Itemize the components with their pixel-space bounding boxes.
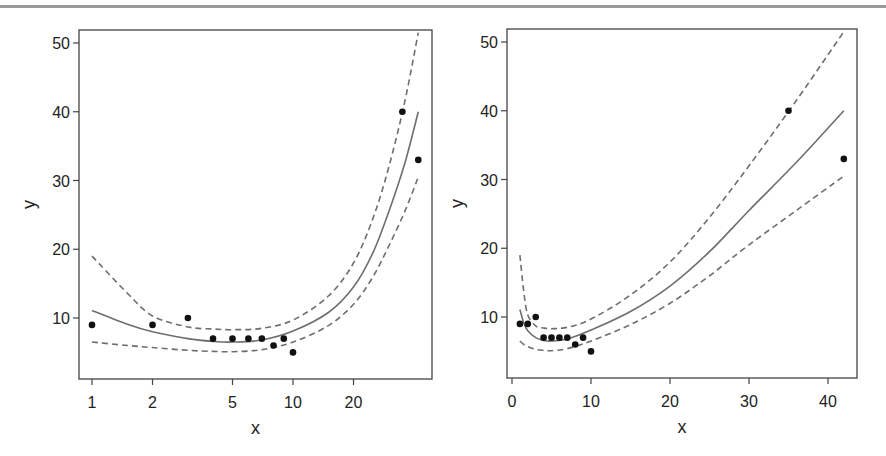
x-tick-label: 2 bbox=[148, 394, 157, 411]
data-point bbox=[525, 321, 532, 328]
x-axis-label: x bbox=[678, 417, 687, 437]
x-axis-label: x bbox=[251, 418, 260, 438]
x-tick-label: 20 bbox=[661, 393, 679, 410]
y-axis-label: y bbox=[19, 200, 39, 209]
y-tick-label: 20 bbox=[480, 240, 498, 257]
upper-curve bbox=[520, 32, 844, 329]
y-tick-label: 30 bbox=[52, 173, 70, 190]
data-point bbox=[185, 315, 192, 322]
y-tick-label: 10 bbox=[480, 309, 498, 326]
data-point bbox=[399, 108, 406, 115]
data-point bbox=[540, 334, 547, 341]
data-point bbox=[580, 334, 587, 341]
x-tick-label: 30 bbox=[740, 393, 758, 410]
data-point bbox=[270, 342, 277, 349]
x-tick-label: 40 bbox=[819, 393, 837, 410]
x-tick-label: 1 bbox=[88, 394, 97, 411]
lower-curve bbox=[92, 177, 418, 352]
data-point bbox=[548, 334, 555, 341]
upper-curve bbox=[92, 33, 418, 330]
data-point bbox=[290, 349, 297, 356]
data-point bbox=[245, 335, 252, 342]
left-panel-log-scale: 10203040501251020xy bbox=[19, 30, 432, 438]
y-tick-label: 30 bbox=[480, 172, 498, 189]
y-axis-label: y bbox=[447, 199, 467, 208]
data-point bbox=[556, 334, 563, 341]
x-tick-label: 10 bbox=[582, 393, 600, 410]
plot-frame bbox=[79, 30, 432, 379]
y-tick-label: 20 bbox=[52, 241, 70, 258]
data-point bbox=[841, 156, 848, 163]
x-tick-label: 5 bbox=[228, 394, 237, 411]
data-point bbox=[564, 334, 571, 341]
chart-figure: 10203040501251020xy 1020304050010203040x… bbox=[0, 0, 886, 456]
x-tick-label: 0 bbox=[508, 393, 517, 410]
data-point bbox=[785, 107, 792, 114]
x-tick-label: 10 bbox=[284, 394, 302, 411]
plot-frame bbox=[507, 29, 857, 378]
y-tick-label: 40 bbox=[480, 103, 498, 120]
y-tick-label: 40 bbox=[52, 104, 70, 121]
data-point bbox=[532, 314, 539, 321]
fit-curve bbox=[520, 111, 844, 341]
y-tick-label: 50 bbox=[52, 35, 70, 52]
data-point bbox=[572, 341, 579, 348]
data-point bbox=[210, 335, 217, 342]
data-point bbox=[229, 335, 236, 342]
data-point bbox=[415, 157, 422, 164]
y-tick-label: 50 bbox=[480, 34, 498, 51]
data-point bbox=[517, 321, 524, 328]
data-point bbox=[89, 322, 96, 329]
right-panel-linear-scale: 1020304050010203040xy bbox=[447, 29, 857, 437]
data-point bbox=[588, 348, 595, 355]
data-point bbox=[149, 322, 156, 329]
data-point bbox=[259, 335, 266, 342]
x-tick-label: 20 bbox=[345, 394, 363, 411]
data-point bbox=[281, 335, 288, 342]
y-tick-label: 10 bbox=[52, 310, 70, 327]
lower-curve bbox=[520, 176, 844, 351]
